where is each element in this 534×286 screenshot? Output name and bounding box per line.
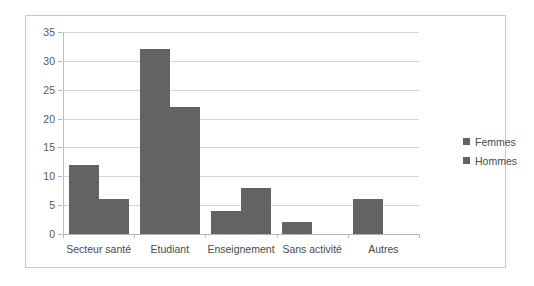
y-axis-tick-label: 15 (43, 141, 55, 153)
plot-area: 05101520253035 Secteur santéEtudiantEnse… (63, 32, 419, 234)
x-axis-tick (63, 234, 64, 238)
legend-item-hommes[interactable]: Hommes (463, 151, 517, 170)
y-axis-tick (58, 90, 63, 91)
legend-item-label: Hommes (475, 155, 517, 167)
y-axis-line (63, 32, 64, 234)
y-axis-tick (58, 32, 63, 33)
x-axis-tick (277, 234, 278, 238)
legend-item-femmes[interactable]: Femmes (463, 132, 517, 151)
chart-legend: Femmes Hommes (463, 132, 517, 170)
x-axis-tick-label: Etudiant (151, 243, 190, 255)
square-marker-icon (463, 157, 470, 164)
x-axis-tick (134, 234, 135, 238)
x-axis-tick (348, 234, 349, 238)
bar (140, 49, 170, 234)
square-marker-icon (463, 138, 470, 145)
gridline (63, 90, 419, 91)
y-axis-tick-label: 0 (49, 228, 55, 240)
bar (99, 199, 129, 234)
gridline (63, 147, 419, 148)
y-axis-tick (58, 119, 63, 120)
bar (241, 188, 271, 234)
y-axis-tick-label: 30 (43, 55, 55, 67)
bar (282, 222, 312, 234)
bar (69, 165, 99, 234)
bar (170, 107, 200, 234)
y-axis-tick (58, 176, 63, 177)
gridline (63, 32, 419, 33)
x-axis-baseline (63, 234, 419, 235)
x-axis-tick-label: Autres (368, 243, 398, 255)
y-axis-tick-label: 5 (49, 199, 55, 211)
y-axis-tick-label: 20 (43, 113, 55, 125)
y-axis-tick-label: 25 (43, 84, 55, 96)
gridline (63, 61, 419, 62)
x-axis-tick-label: Sans activité (282, 243, 342, 255)
x-axis-tick (205, 234, 206, 238)
y-axis-tick-label: 35 (43, 26, 55, 38)
y-axis-tick-label: 10 (43, 170, 55, 182)
chart-frame: 05101520253035 Secteur santéEtudiantEnse… (25, 15, 506, 268)
bar (353, 199, 383, 234)
gridline (63, 119, 419, 120)
y-axis-tick (58, 205, 63, 206)
y-axis-tick (58, 147, 63, 148)
x-axis-tick-label: Enseignement (207, 243, 274, 255)
x-axis-tick-label: Secteur santé (66, 243, 131, 255)
legend-item-label: Femmes (475, 136, 516, 148)
y-axis-tick (58, 61, 63, 62)
x-axis-tick (419, 234, 420, 238)
gridline (63, 176, 419, 177)
bar (211, 211, 241, 234)
